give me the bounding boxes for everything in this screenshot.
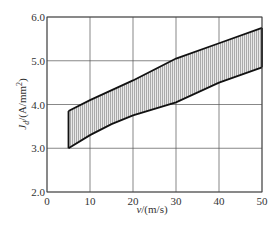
svg-text:30: 30 bbox=[171, 195, 183, 207]
svg-text:2.0: 2.0 bbox=[31, 186, 45, 198]
svg-text:0: 0 bbox=[44, 195, 50, 207]
svg-text:6.0: 6.0 bbox=[31, 11, 45, 23]
svg-text:40: 40 bbox=[214, 195, 226, 207]
svg-text:5.0: 5.0 bbox=[31, 55, 45, 67]
svg-text:10: 10 bbox=[85, 195, 97, 207]
chart: 01020304050 2.03.04.05.06.0 v/(m/s) Jd/(… bbox=[0, 0, 280, 226]
svg-text:3.0: 3.0 bbox=[31, 142, 45, 154]
data-band bbox=[69, 28, 263, 148]
svg-text:4.0: 4.0 bbox=[31, 99, 45, 111]
y-axis-label: Jd/(A/mm2) bbox=[15, 78, 31, 130]
svg-text:50: 50 bbox=[257, 195, 269, 207]
x-axis-label: v/(m/s) bbox=[136, 203, 168, 216]
y-tick-labels: 2.03.04.05.06.0 bbox=[31, 11, 45, 198]
